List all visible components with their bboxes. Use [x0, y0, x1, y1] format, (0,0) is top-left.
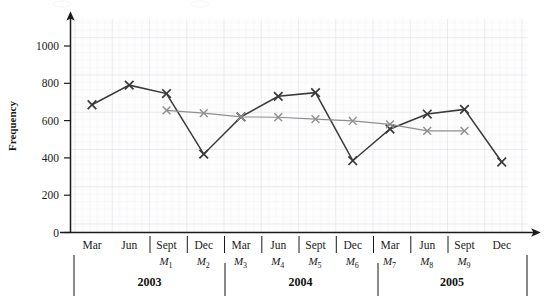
x-axis-interval-labels: M1M2M3M4M5M6M7M8M9 — [158, 255, 470, 270]
x-interval-label-M4: M4 — [270, 255, 284, 270]
x-tick-label-3: Dec — [194, 239, 213, 251]
x-tick-label-7: Dec — [343, 239, 362, 251]
x-interval-label-M7: M7 — [382, 255, 396, 270]
x-tick-label-2: Sept — [156, 239, 177, 252]
plot-grid — [71, 19, 528, 233]
y-tick-label-200: 200 — [42, 189, 60, 201]
x-interval-label-M6: M6 — [345, 255, 359, 270]
x-axis-year-labels: 200320042005 — [138, 275, 465, 289]
x-tick-label-8: Mar — [380, 239, 399, 251]
chart-figure: 0 200 400 600 800 1000 Frequency MarJunS… — [0, 0, 560, 298]
y-tick-label-800: 800 — [42, 77, 60, 89]
y-axis-ticks: 0 200 400 600 800 1000 — [36, 40, 71, 239]
x-interval-label-M5: M5 — [307, 255, 321, 270]
x-interval-label-M9: M9 — [456, 255, 470, 270]
y-axis-title: Frequency — [6, 101, 18, 151]
x-tick-label-9: Jun — [419, 239, 435, 251]
x-tick-label-10: Sept — [454, 239, 475, 252]
x-interval-label-M1: M1 — [158, 255, 172, 270]
year-label-2003: 2003 — [138, 275, 162, 289]
x-tick-label-0: Mar — [82, 239, 101, 251]
year-label-2004: 2004 — [289, 275, 313, 289]
x-interval-label-M2: M2 — [196, 255, 210, 270]
x-tick-label-5: Jun — [270, 239, 286, 251]
x-tick-label-1: Jun — [121, 239, 137, 251]
y-tick-label-1000: 1000 — [36, 40, 59, 52]
top-cropped-marks — [53, 1, 209, 7]
x-tick-label-11: Dec — [492, 239, 511, 251]
x-interval-label-M8: M8 — [419, 255, 433, 270]
x-tick-label-4: Mar — [231, 239, 250, 251]
x-axis-month-labels: MarJunSeptDecMarJunSeptDecMarJunSeptDec — [82, 239, 511, 252]
x-interval-label-M3: M3 — [233, 255, 247, 270]
y-tick-label-400: 400 — [42, 152, 60, 164]
year-label-2005: 2005 — [440, 275, 464, 289]
frequency-line-chart: 0 200 400 600 800 1000 Frequency MarJunS… — [0, 0, 560, 298]
y-tick-label-0: 0 — [53, 227, 59, 239]
y-tick-label-600: 600 — [42, 115, 60, 127]
x-tick-label-6: Sept — [305, 239, 326, 252]
